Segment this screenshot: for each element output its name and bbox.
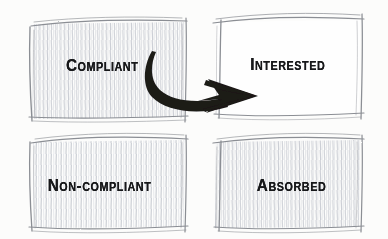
- cell-label-compliant: Compliant: [66, 56, 138, 76]
- sketch-diagram-canvas: Compliant Interested Non-compliant Absor…: [0, 0, 388, 239]
- cell-label-interested: Interested: [250, 55, 325, 75]
- cell-label-absorbed: Absorbed: [257, 176, 326, 196]
- cell-label-non-compliant: Non-compliant: [48, 176, 152, 196]
- sketch-vector-layer: [0, 0, 388, 239]
